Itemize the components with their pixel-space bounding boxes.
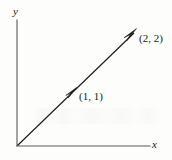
arrowhead-midpoint-icon [66,88,77,99]
arrowhead-tip-icon [124,29,137,41]
diagram-canvas [0,0,172,160]
point-label-2-2: (2, 2) [139,33,163,44]
y-axis-label: y [13,6,18,17]
vector-ray [18,33,135,146]
point-label-1-1: (1, 1) [79,91,103,102]
x-axis-label: x [152,139,157,150]
vector-diagram: y x (1, 1) (2, 2) [0,0,172,160]
